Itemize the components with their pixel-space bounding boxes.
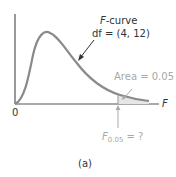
curve-label: F-curve xyxy=(100,15,137,26)
critical-suffix: = ? xyxy=(123,131,143,142)
f-distribution-diagram xyxy=(0,0,176,177)
x-axis-label-text: F xyxy=(162,98,168,109)
origin-label: 0 xyxy=(12,107,18,118)
x-axis-label: F xyxy=(162,98,168,109)
curve-pointer-arrow xyxy=(80,40,94,58)
critical-subscript: 0.05 xyxy=(108,136,124,144)
caption: (a) xyxy=(78,158,92,169)
critical-arrowhead xyxy=(116,105,121,110)
curve-pointer-arrowhead xyxy=(78,54,84,61)
critical-value-label: F0.05 = ? xyxy=(102,131,143,146)
area-label: Area = 0.05 xyxy=(114,71,174,82)
df-label: df = (4, 12) xyxy=(92,28,150,39)
curve-label-suffix: -curve xyxy=(106,15,138,26)
